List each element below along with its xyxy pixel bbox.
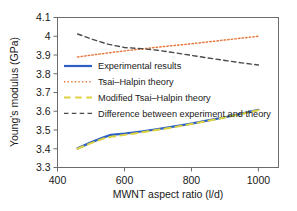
y-tick-label: 3.7 [36,86,51,98]
y-axis-title: Young's modulus (GPa) [8,37,20,147]
y-tick-label: 3.3 [36,161,51,173]
y-tick-label: 3.5 [36,124,51,136]
x-tick-label: 600 [116,174,134,186]
y-tick-label: 3.4 [36,143,51,155]
legend-label: Experimental results [98,61,182,71]
y-axis: 3.33.43.53.63.73.83.944.1 [36,11,58,173]
y-tick-label: 4 [45,30,51,42]
x-tick-label: 400 [49,174,67,186]
chart-figure: 3.33.43.53.63.73.83.944.1 4006008001000 … [0,0,297,211]
x-axis-title: MWNT aspect ratio (l/d) [113,188,224,200]
y-tick-label: 3.6 [36,105,51,117]
chart-canvas: 3.33.43.53.63.73.83.944.1 4006008001000 … [0,0,297,211]
x-tick-label: 1000 [247,174,271,186]
legend-label: Modified Tsai–Halpin theory [98,93,211,103]
legend-label: Difference between experiment and theory [98,109,271,119]
y-tick-label: 4.1 [36,11,51,23]
y-tick-label: 3.8 [36,68,51,80]
legend-label: Tsai–Halpin theory [98,77,174,87]
y-tick-label: 3.9 [36,49,51,61]
x-axis: 4006008001000 [49,168,271,186]
x-tick-label: 800 [183,174,201,186]
